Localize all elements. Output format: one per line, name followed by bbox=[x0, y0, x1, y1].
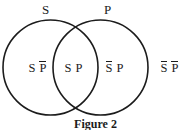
term-s-bar: S bbox=[105, 62, 113, 75]
term-s-plain: S bbox=[64, 62, 72, 75]
set-label-p: P bbox=[104, 3, 111, 16]
venn-diagram-figure: S P SP SP SP SP Figure 2 bbox=[0, 0, 191, 131]
region-label-intersection: SP bbox=[64, 62, 83, 75]
term-p-plain: P bbox=[75, 62, 83, 75]
figure-caption: Figure 2 bbox=[0, 118, 191, 130]
region-label-p-only: SP bbox=[105, 62, 124, 75]
set-label-s: S bbox=[42, 3, 49, 16]
circle-s bbox=[3, 20, 98, 115]
term-p-plain: P bbox=[116, 62, 124, 75]
term-s-bar: S bbox=[160, 62, 168, 75]
term-p-bar: P bbox=[171, 62, 179, 75]
region-label-s-only: SP bbox=[28, 62, 47, 75]
term-s-plain: S bbox=[28, 62, 36, 75]
term-p-bar: P bbox=[39, 62, 47, 75]
region-label-outside: SP bbox=[160, 62, 179, 75]
